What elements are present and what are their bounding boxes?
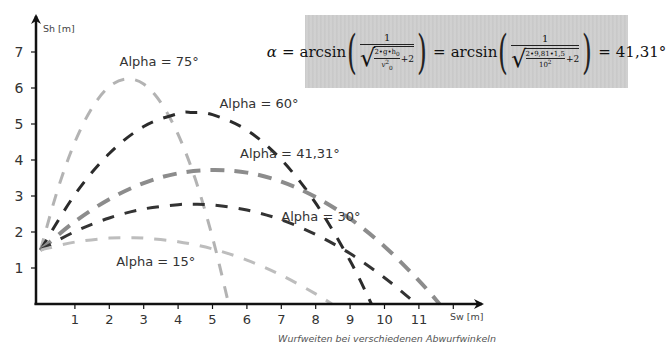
x-tick-label: 3 [140,312,148,327]
formula-equals-3: = [598,43,611,61]
formula-result: 41,31° [616,43,666,61]
x-tick-label: 11 [411,312,428,327]
y-tick-label: 7 [15,44,24,60]
y-tick-label: 4 [15,152,24,168]
x-tick-label: 6 [243,312,251,327]
formula-box: α = arcsin ( 1 √ 2•g•h0 v20 +2 ) = arcsi… [305,15,628,88]
formula-arcsin-2: arcsin [451,43,498,61]
trajectory-curves [41,79,440,304]
formula-symbolic-fraction: 1 √ 2•g•h0 v20 +2 [360,32,414,70]
formula-equals-2: = [433,43,446,61]
series-label: Alpha = 75° [120,54,199,69]
y-tick-label: 5 [15,116,24,132]
formula-numeric-fraction: 1 √ 2•9,81•1,5 102 +2 [511,33,579,71]
formula-equals: = [282,43,295,61]
y-tick-label: 6 [15,80,24,96]
trajectory-series-4 [41,238,332,304]
series-label: Alpha = 60° [219,96,298,111]
series-label: Alpha = 41,31° [240,146,340,161]
chart-caption: Wurfweiten bei verschiedenen Abwurfwinke… [278,333,496,344]
x-tick-label: 9 [346,312,354,327]
sqrt-icon: √ [360,46,375,70]
y-axis-ticks: 1234567 [15,44,36,276]
formula-alpha: α [267,43,277,61]
y-tick-label: 3 [15,188,24,204]
formula-paren-open: ( [347,29,357,75]
x-axis-ticks: 1234567891011 [71,304,454,327]
x-tick-label: 5 [208,312,216,327]
x-tick-label: 4 [174,312,182,327]
x-tick-label: 8 [312,312,320,327]
trajectory-series-2 [41,170,440,304]
y-axis-title: Sh [m] [43,23,75,34]
sqrt-icon: √ [511,47,526,71]
y-tick-label: 2 [15,224,24,240]
x-tick-label: 7 [277,312,285,327]
series-label: Alpha = 30° [281,209,360,224]
x-tick-label: 10 [376,312,393,327]
formula-arcsin: arcsin [299,43,346,61]
x-tick-label: 1 [71,312,79,327]
trajectory-series-1 [41,112,372,304]
formula: α = arcsin ( 1 √ 2•g•h0 v20 +2 ) = arcsi… [267,29,666,75]
series-label: Alpha = 15° [116,254,195,269]
x-axis-title: Sw [m] [450,311,484,322]
y-tick-label: 1 [15,260,24,276]
formula-paren-close: ) [417,29,427,75]
trajectory-series-0 [41,79,229,304]
x-tick-label: 2 [105,312,113,327]
